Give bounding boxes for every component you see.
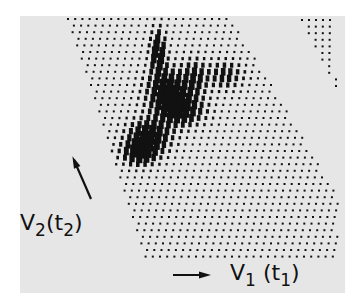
axis-label-v2: V2(t2) (20, 212, 83, 234)
arrow-right-icon (173, 272, 211, 279)
axis-label-v1: V1 (t1) (230, 262, 300, 284)
lattice-dots (67, 18, 339, 258)
dot-lattice-plot (0, 0, 364, 304)
arrow-up-left-icon (72, 156, 91, 199)
